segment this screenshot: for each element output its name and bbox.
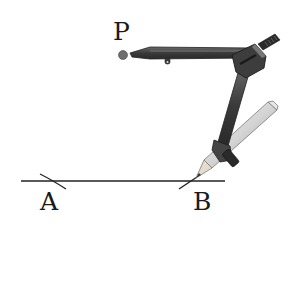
point-a-label: A — [39, 187, 59, 216]
compass-hinge — [232, 34, 280, 78]
adjustment-screw-icon — [258, 34, 280, 50]
compass-lower-arm — [212, 66, 250, 167]
pivot-point-p — [119, 51, 128, 60]
point-b-label: B — [193, 187, 211, 216]
point-p-label: P — [113, 17, 130, 46]
compass-construction-diagram: P A B — [0, 0, 298, 288]
compass — [119, 34, 281, 178]
